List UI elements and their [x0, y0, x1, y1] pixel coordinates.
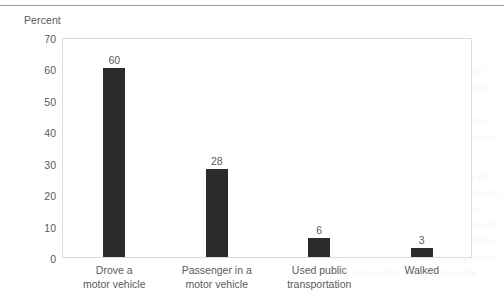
bar-value-label: 6 [316, 224, 322, 236]
category-label-line: Drove a [83, 264, 145, 278]
x-axis-category-label: Used publictransportation [287, 264, 351, 291]
category-label-line: Used public [287, 264, 351, 278]
category-label-line: motor vehicle [182, 278, 252, 292]
category-label-line: Passenger in a [182, 264, 252, 278]
y-axis-tick-label: 10 [44, 222, 56, 234]
y-axis-title: Percent [24, 14, 61, 26]
plot-area: 70605040302010060Drove amotor vehicle28P… [62, 38, 472, 258]
bar-chart: Percent 70605040302010060Drove amotor ve… [0, 0, 504, 303]
x-axis-category-label: Passenger in amotor vehicle [182, 264, 252, 291]
y-axis-tick-label: 40 [44, 127, 56, 139]
y-axis-tick-label: 0 [50, 253, 56, 265]
y-axis-tick-label: 60 [44, 64, 56, 76]
x-axis-category-label: Drove amotor vehicle [83, 264, 145, 291]
bar [206, 169, 228, 257]
bar-value-label: 28 [211, 155, 223, 167]
category-label-line: motor vehicle [83, 278, 145, 292]
y-axis-tick-label: 30 [44, 159, 56, 171]
bar-value-label: 3 [419, 234, 425, 246]
y-axis-tick-label: 70 [44, 33, 56, 45]
category-label-line: transportation [287, 278, 351, 292]
bar [308, 238, 330, 257]
y-axis-tick-label: 20 [44, 190, 56, 202]
x-axis-category-label: Walked [404, 264, 439, 278]
bar [411, 248, 433, 257]
y-axis-tick-label: 50 [44, 96, 56, 108]
bar-value-label: 60 [108, 54, 120, 66]
category-label-line: Walked [404, 264, 439, 278]
bar [103, 68, 125, 257]
